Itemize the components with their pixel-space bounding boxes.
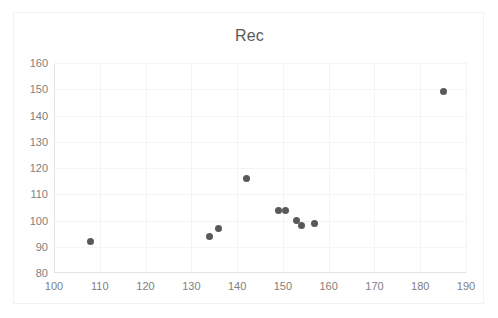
data-point [87,238,94,245]
x-tick-label: 160 [319,280,337,292]
chart-title: Rec [14,27,485,45]
x-axis-line [54,272,466,273]
gridline-horizontal [54,63,466,64]
chart-container: Rec 8090100110120130140150160 1001101201… [13,12,484,304]
data-point [215,225,222,232]
plot-area: 8090100110120130140150160 10011012013014… [54,63,466,273]
data-point [275,207,282,214]
x-tick-label: 130 [182,280,200,292]
gridline-horizontal [54,142,466,143]
x-tick-label: 170 [365,280,383,292]
data-point [282,207,289,214]
gridline-horizontal [54,168,466,169]
gridline-vertical [466,63,467,273]
y-tick-label: 150 [30,83,48,95]
x-tick-label: 140 [228,280,246,292]
x-tick-label: 180 [411,280,429,292]
x-tick-label: 150 [274,280,292,292]
data-point [206,233,213,240]
y-tick-label: 80 [36,267,48,279]
y-tick-label: 110 [30,188,48,200]
data-point [440,88,447,95]
x-tick-label: 120 [136,280,154,292]
gridline-horizontal [54,194,466,195]
y-tick-label: 160 [30,57,48,69]
y-tick-label: 120 [30,162,48,174]
y-tick-label: 130 [30,136,48,148]
data-point [243,175,250,182]
data-point [311,220,318,227]
gridline-horizontal [54,221,466,222]
y-tick-label: 100 [30,215,48,227]
data-point [298,222,305,229]
gridline-horizontal [54,247,466,248]
y-tick-label: 90 [36,241,48,253]
x-tick-label: 190 [457,280,475,292]
gridline-horizontal [54,89,466,90]
gridline-horizontal [54,116,466,117]
x-tick-label: 110 [91,280,109,292]
y-tick-label: 140 [30,110,48,122]
x-tick-label: 100 [45,280,63,292]
